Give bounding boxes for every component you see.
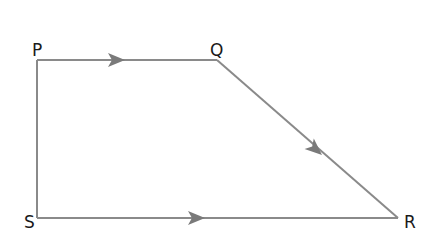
vertex-label-s: S (24, 212, 35, 230)
trapezium-diagram: P Q R S (0, 0, 428, 230)
vertex-label-p: P (32, 40, 42, 60)
edge-q-r (217, 60, 398, 218)
vertex-label-q: Q (210, 40, 223, 60)
vertex-label-r: R (404, 212, 416, 230)
arrow-q-to-r-icon (305, 139, 327, 161)
